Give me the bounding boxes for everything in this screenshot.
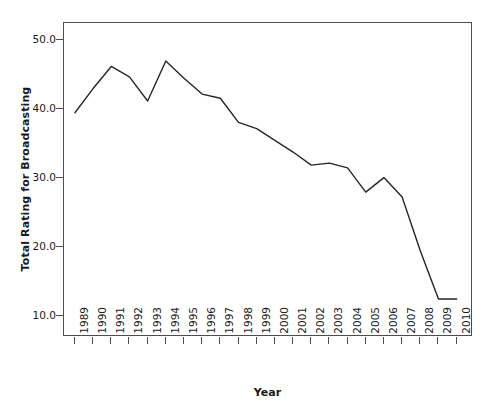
x-tick-mark: [401, 337, 402, 344]
x-tick-mark: [92, 337, 93, 344]
x-tick-mark: [147, 337, 148, 344]
y-tick-mark: [56, 108, 63, 109]
plot-area: [63, 22, 472, 336]
x-tick-label: 1998: [242, 307, 254, 347]
x-tick-label: 2007: [405, 307, 417, 347]
x-tick-mark: [419, 337, 420, 344]
x-tick-mark: [347, 337, 348, 344]
chart-figure: Total Rating for Broadcasting 10.020.030…: [0, 0, 493, 410]
x-tick-mark: [183, 337, 184, 344]
x-tick-mark: [110, 337, 111, 344]
x-tick-mark: [310, 337, 311, 344]
x-tick-label: 1991: [114, 307, 126, 347]
x-tick-mark: [201, 337, 202, 344]
x-tick-mark: [365, 337, 366, 344]
x-tick-label: 2010: [460, 307, 472, 347]
x-tick-mark: [437, 337, 438, 344]
x-tick-mark: [128, 337, 129, 344]
y-tick-mark: [56, 177, 63, 178]
x-tick-label: 2004: [351, 307, 363, 347]
x-axis-title: Year: [63, 386, 472, 399]
x-tick-mark: [456, 337, 457, 344]
x-tick-label: 1989: [78, 307, 90, 347]
x-tick-label: 2008: [423, 307, 435, 347]
y-tick-label: 20.0: [12, 240, 56, 252]
y-tick-label: 40.0: [12, 102, 56, 114]
y-tick-label: 50.0: [12, 33, 56, 45]
x-tick-mark: [238, 337, 239, 344]
x-tick-label: 1992: [132, 307, 144, 347]
x-tick-label: 2002: [314, 307, 326, 347]
x-tick-label: 2003: [332, 307, 344, 347]
x-tick-label: 2001: [296, 307, 308, 347]
x-tick-label: 1999: [260, 307, 272, 347]
y-tick-mark: [56, 246, 63, 247]
x-tick-label: 1995: [187, 307, 199, 347]
x-tick-label: 2005: [369, 307, 381, 347]
y-tick-mark: [56, 39, 63, 40]
y-axis-tick-labels: 10.020.030.040.050.0: [8, 0, 56, 410]
x-tick-label: 2009: [441, 307, 453, 347]
line-series-svg: [64, 23, 473, 337]
x-tick-mark: [274, 337, 275, 344]
x-tick-mark: [328, 337, 329, 344]
x-tick-label: 1990: [96, 307, 108, 347]
y-tick-mark: [56, 315, 63, 316]
x-tick-mark: [219, 337, 220, 344]
x-tick-mark: [292, 337, 293, 344]
x-tick-label: 2006: [387, 307, 399, 347]
series-line-total-rating: [75, 61, 457, 299]
x-tick-label: 1993: [151, 307, 163, 347]
x-tick-label: 1996: [205, 307, 217, 347]
x-tick-mark: [74, 337, 75, 344]
x-tick-label: 1997: [223, 307, 235, 347]
y-tick-label: 10.0: [12, 309, 56, 321]
x-tick-mark: [165, 337, 166, 344]
y-tick-label: 30.0: [12, 171, 56, 183]
x-tick-mark: [256, 337, 257, 344]
x-tick-label: 1994: [169, 307, 181, 347]
x-tick-label: 2000: [278, 307, 290, 347]
x-tick-mark: [383, 337, 384, 344]
